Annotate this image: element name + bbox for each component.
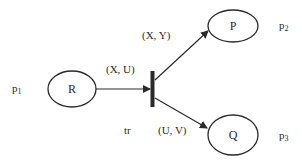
place-p2-label: p2 — [279, 19, 289, 33]
place-p2-token-label: P — [230, 19, 237, 33]
place-p1: R p1 — [12, 71, 96, 107]
arc-p1-tr-label: (X, U) — [106, 63, 135, 76]
place-p3-label: p3 — [279, 129, 289, 143]
place-p3-token-label: Q — [229, 128, 238, 142]
place-p3: Q p3 — [208, 115, 289, 155]
place-p1-label: p1 — [12, 82, 22, 96]
transition-bar — [151, 71, 155, 107]
arc-tr-p2-label: (X, Y) — [142, 29, 171, 42]
place-p1-token-label: R — [68, 82, 76, 96]
petri-net-diagram: R p1 P p2 Q p3 tr (X, U) (X, Y) (U, V) — [0, 0, 302, 168]
place-p2: P p2 — [208, 10, 289, 42]
transition-label: tr — [124, 124, 131, 136]
arc-tr-p3-label: (U, V) — [158, 124, 187, 137]
